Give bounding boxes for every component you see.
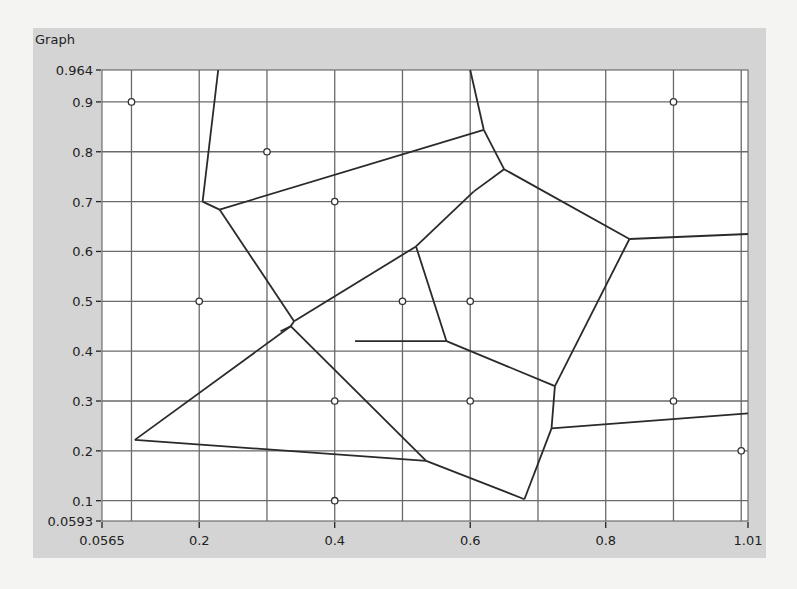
voronoi-chart: 0.9640.90.80.70.60.50.40.30.20.10.0593 0… [0,0,797,589]
x-tick-label: 0.8 [595,533,616,548]
y-tick-label: 0.5 [72,294,93,309]
y-tick-label: 0.0593 [48,514,94,529]
y-tick-label: 0.964 [56,63,93,78]
y-tick-label: 0.4 [72,344,93,359]
y-axis: 0.9640.90.80.70.60.50.40.30.20.10.0593 [48,63,102,529]
site-marker [128,99,134,105]
site-marker [738,448,744,454]
y-tick-label: 0.2 [72,444,93,459]
site-marker [670,398,676,404]
site-marker [467,398,473,404]
y-tick-label: 0.3 [72,394,93,409]
x-tick-label: 0.6 [460,533,481,548]
x-tick-label: 1.01 [734,533,763,548]
y-tick-label: 0.1 [72,494,93,509]
site-marker [399,298,405,304]
site-marker [332,398,338,404]
y-tick-label: 0.9 [72,95,93,110]
site-marker [332,198,338,204]
site-marker [670,99,676,105]
site-marker [264,149,270,155]
site-marker [467,298,473,304]
y-tick-label: 0.6 [72,244,93,259]
x-axis: 0.05650.20.40.60.81.01 [79,522,762,548]
site-marker [196,298,202,304]
site-marker [332,498,338,504]
x-tick-label: 0.2 [189,533,210,548]
x-tick-label: 0.4 [324,533,345,548]
y-tick-label: 0.7 [72,195,93,210]
y-tick-label: 0.8 [72,145,93,160]
x-tick-label: 0.0565 [79,533,125,548]
